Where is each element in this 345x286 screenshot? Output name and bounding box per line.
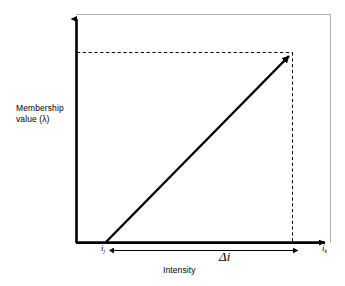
plot-canvas [0, 0, 345, 286]
y-axis-label: Membershipvalue (λ) [16, 103, 80, 125]
delta-i-label: Δi [219, 249, 230, 265]
y-axis-label-line2: value (λ) [16, 114, 50, 124]
tick-label-lower-intensity-subscript: j [104, 248, 106, 254]
x-axis-label: Intensity [163, 265, 196, 276]
figure-container: Membershipvalue (λ) Intensity ij ik Δi [0, 0, 345, 286]
tick-label-lower-intensity: ij [101, 243, 105, 254]
tick-label-upper-intensity: ik [322, 243, 327, 254]
membership-ramp-line [106, 56, 289, 242]
y-axis-label-line1: Membership [16, 103, 64, 113]
tick-label-upper-intensity-subscript: k [325, 248, 327, 254]
